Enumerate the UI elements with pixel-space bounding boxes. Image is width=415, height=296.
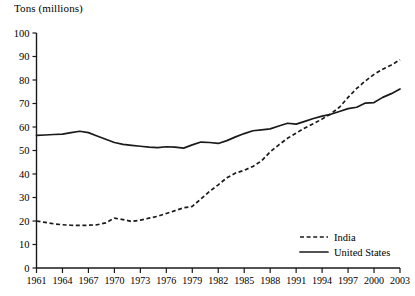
- y-tick-label: 70: [19, 98, 30, 109]
- x-tick-label: 2003: [390, 275, 410, 286]
- legend-label-united-states: United States: [334, 247, 390, 258]
- chart-legend: IndiaUnited States: [300, 232, 390, 258]
- data-series-group: [37, 60, 401, 226]
- x-axis: 1961196419671970197319761979198219851988…: [27, 268, 411, 286]
- x-tick-label: 1970: [104, 275, 124, 286]
- y-tick-label: 30: [19, 192, 30, 203]
- x-tick-label: 1979: [182, 275, 202, 286]
- y-tick-label: 20: [19, 216, 30, 227]
- x-tick-label: 1967: [78, 275, 98, 286]
- y-tick-label: 0: [24, 263, 29, 274]
- x-tick-label: 1994: [312, 275, 332, 286]
- x-tick-label: 1976: [156, 275, 176, 286]
- series-line-united-states: [37, 89, 401, 148]
- x-tick-label: 1973: [130, 275, 150, 286]
- x-tick-label: 1985: [234, 275, 254, 286]
- y-tick-label: 60: [19, 122, 30, 133]
- y-tick-label: 80: [19, 75, 30, 86]
- x-tick-label: 1997: [338, 275, 358, 286]
- y-axis: 0102030405060708090100: [14, 28, 37, 274]
- y-tick-label: 100: [14, 28, 30, 39]
- x-tick-label: 1961: [27, 275, 47, 286]
- x-tick-label: 1988: [260, 275, 280, 286]
- legend-label-india: India: [334, 232, 356, 243]
- chart-container: Tons (millions) 0102030405060708090100 1…: [0, 0, 415, 296]
- y-tick-label: 90: [19, 51, 30, 62]
- y-tick-label: 50: [19, 145, 30, 156]
- x-tick-label: 1982: [208, 275, 228, 286]
- y-tick-label: 10: [19, 239, 30, 250]
- x-tick-label: 1991: [286, 275, 306, 286]
- y-tick-label: 40: [19, 169, 30, 180]
- line-chart-plot: 0102030405060708090100 19611964196719701…: [0, 0, 415, 296]
- x-tick-label: 2000: [364, 275, 384, 286]
- x-tick-label: 1964: [52, 275, 72, 286]
